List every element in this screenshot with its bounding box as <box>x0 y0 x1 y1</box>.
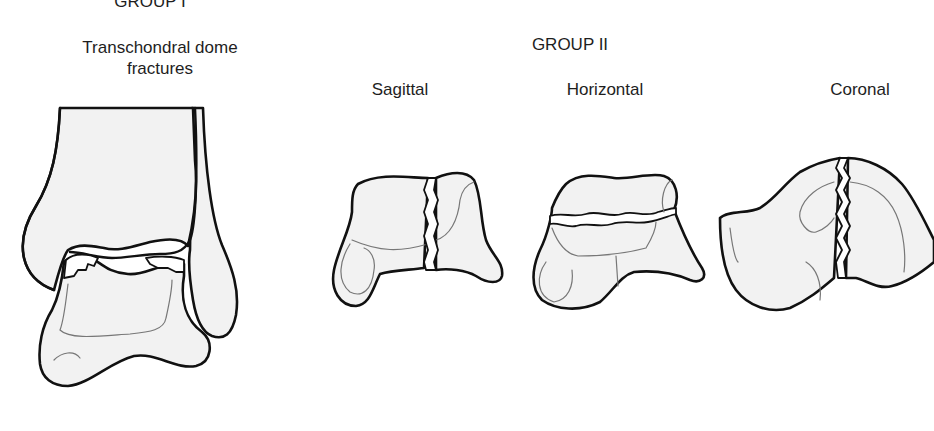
sagittal-fracture-illustration <box>333 173 502 306</box>
ankle-joint-illustration <box>23 108 237 386</box>
horizontal-fracture-illustration <box>534 175 705 309</box>
coronal-fracture-illustration <box>720 158 934 310</box>
